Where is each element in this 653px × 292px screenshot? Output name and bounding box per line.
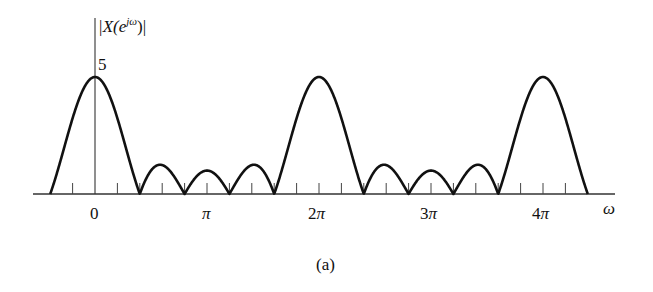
x-tick-label: 4π <box>532 205 549 222</box>
x-tick-label: π <box>202 205 211 222</box>
x-tick-label: 3π <box>420 205 437 222</box>
magnitude-plot <box>0 0 653 292</box>
figure-caption: (a) <box>316 256 335 273</box>
magnitude-curve <box>50 77 588 194</box>
y-tick-label-5: 5 <box>98 56 107 73</box>
x-tick-label: 0 <box>90 205 99 222</box>
y-label-post: )| <box>137 17 146 36</box>
x-axis-label: ω <box>603 200 615 217</box>
y-label-pre: |X(e <box>98 17 126 36</box>
x-minor-ticks <box>73 183 566 194</box>
y-axis-label: |X(ejω)| <box>98 16 146 35</box>
x-tick-label: 2π <box>308 205 325 222</box>
y-label-sup: jω <box>126 15 137 27</box>
